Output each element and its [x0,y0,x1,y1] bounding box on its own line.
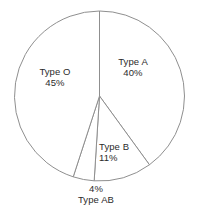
slice-label-type-o-value: 45% [22,77,88,88]
slice-label-type-ab-name: Type AB [46,194,146,205]
slice-label-type-o-name: Type O [22,66,88,77]
slice-label-type-o: Type O 45% [22,66,88,88]
pie-chart: Type A 40% Type O 45% Type B 11% 4% Type… [0,0,197,218]
slice-label-type-a: Type A 40% [104,56,162,78]
slice-label-type-a-name: Type A [104,56,162,67]
slice-label-type-b: Type B 11% [99,141,147,163]
slice-label-type-ab: 4% Type AB [46,183,146,205]
slice-label-type-b-name: Type B [99,141,147,152]
slice-label-type-a-value: 40% [104,67,162,78]
slice-label-type-b-value: 11% [99,152,147,163]
slice-label-type-ab-value: 4% [46,183,146,194]
